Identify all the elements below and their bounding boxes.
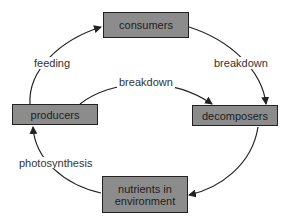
edge-label-breakdown-inner: breakdown [117,76,175,88]
node-nutrients-label-line1: nutrients in [118,183,172,195]
node-decomposers-label: decomposers [202,110,268,122]
node-producers-label: producers [31,109,80,121]
edge-label-photosynthesis: photosynthesis [17,157,94,169]
node-consumers-label: consumers [119,19,173,31]
node-consumers: consumers [103,12,189,38]
node-nutrients: nutrients in environment [102,176,188,213]
node-decomposers: decomposers [192,105,278,126]
node-nutrients-label-line2: environment [115,195,176,207]
edge-label-breakdown-right: breakdown [212,57,270,69]
arrow-return [189,127,258,195]
edge-label-feeding: feeding [32,57,72,69]
node-producers: producers [12,104,98,125]
